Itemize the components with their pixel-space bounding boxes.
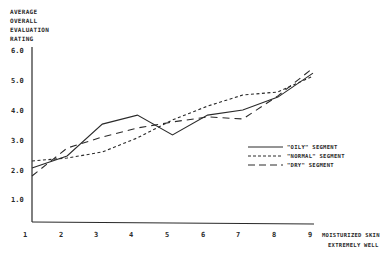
x-tick-label: 5 — [165, 231, 169, 239]
x-tick-label: 6 — [201, 231, 205, 239]
series-line-normal — [32, 76, 313, 161]
legend-label-oily: "OILY" SEGMENT — [287, 144, 338, 150]
series-line-oily — [32, 73, 313, 168]
line-chart: 6.0 5.0 4.0 3.0 2.0 1.0 1 2 3 4 5 6 7 8 … — [0, 0, 391, 257]
y-tick-label: 2.0 — [11, 167, 24, 175]
x-axis — [32, 222, 314, 224]
x-tick-label: 9 — [308, 231, 312, 239]
y-tick-label: 5.0 — [11, 77, 24, 85]
legend-label-normal: "NORMAL" SEGMENT — [287, 153, 345, 159]
y-tick-label: 3.0 — [11, 137, 24, 145]
x-tick-label: 2 — [59, 231, 63, 239]
y-tick-label: 6.0 — [11, 47, 24, 55]
x-tick-label: 3 — [94, 231, 98, 239]
x-tick-label: 1 — [23, 231, 27, 239]
x-axis-label-line-2: EXTREMELY WELL — [328, 242, 379, 248]
x-axis-label-line-1: MOISTURIZED SKIN — [322, 232, 380, 238]
y-tick-label: 4.0 — [11, 107, 24, 115]
y-tick-labels: 6.0 5.0 4.0 3.0 2.0 1.0 — [11, 47, 24, 204]
x-tick-label: 8 — [272, 231, 276, 239]
legend-label-dry: "DRY" SEGMENT — [287, 162, 334, 168]
x-tick-label: 4 — [129, 231, 133, 239]
x-tick-label: 7 — [236, 231, 240, 239]
legend: "OILY" SEGMENT "NORMAL" SEGMENT "DRY" SE… — [248, 144, 345, 168]
x-tick-labels: 1 2 3 4 5 6 7 8 9 — [23, 231, 312, 239]
series-line-dry — [32, 68, 313, 176]
y-tick-label: 1.0 — [11, 196, 24, 204]
